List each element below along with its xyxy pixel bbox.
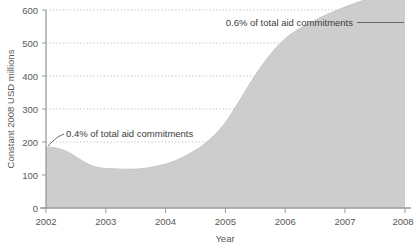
end-annotation-label: 0.6% of total aid commitments — [226, 17, 353, 28]
y-tick-label-600: 600 — [22, 5, 38, 16]
x-tick-label-2007: 2007 — [334, 216, 355, 227]
y-tick-label-100: 100 — [22, 170, 38, 181]
x-tick-label-2005: 2005 — [215, 216, 236, 227]
y-tick-label-500: 500 — [22, 38, 38, 49]
y-tick-label-0: 0 — [33, 203, 38, 214]
y-axis-title: Constant 2008 USD millions — [5, 49, 16, 168]
y-tick-label-300: 300 — [22, 104, 38, 115]
y-tick-labels: 600 500 400 300 200 100 0 — [22, 5, 38, 214]
x-tick-label-2006: 2006 — [275, 216, 296, 227]
area-chart: 600 500 400 300 200 100 0 2002 2003 2004… — [0, 0, 417, 247]
x-tick-labels: 2002 2003 2004 2005 2006 2007 2008 — [35, 216, 413, 227]
x-axis-title: Year — [215, 233, 234, 244]
y-tick-label-200: 200 — [22, 137, 38, 148]
x-tick-label-2003: 2003 — [95, 216, 116, 227]
x-tick-label-2008: 2008 — [392, 216, 413, 227]
x-tick-label-2004: 2004 — [155, 216, 176, 227]
y-tick-label-400: 400 — [22, 71, 38, 82]
x-tick-label-2002: 2002 — [35, 216, 56, 227]
start-annotation-label: 0.4% of total aid commitments — [66, 128, 193, 139]
chart-container: 600 500 400 300 200 100 0 2002 2003 2004… — [0, 0, 417, 247]
x-tick-marks — [46, 208, 405, 213]
